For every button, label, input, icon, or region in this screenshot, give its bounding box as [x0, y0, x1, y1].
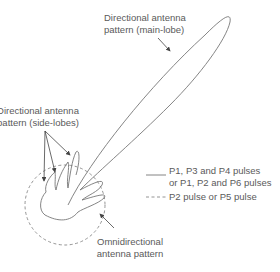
side-lobe-arrow-2 [45, 131, 55, 172]
side-lobes-label: Directional antenna pattern (side-lobes) [0, 105, 82, 128]
side-lobe-arrow-1 [44, 131, 45, 181]
legend-solid-line2: or P1, P2 and P6 pulses [169, 177, 271, 189]
main-lobe-arrow [158, 38, 170, 51]
legend-dashed-label: P2 pulse or P5 pulse [169, 191, 257, 203]
main-lobe-label-line1: Directional antenna [104, 12, 184, 24]
side-lobe-arrow-3 [45, 131, 70, 155]
omni-label-line1: Omnidirectional [90, 236, 170, 248]
main-lobe-label: Directional antenna pattern (main-lobe) [104, 12, 184, 35]
main-lobe-label-line2: pattern (main-lobe) [104, 24, 184, 36]
omni-label: Omnidirectional antenna pattern [90, 236, 170, 259]
legend-solid-line1: P1, P3 and P4 pulses [169, 165, 271, 177]
legend-solid-label: P1, P3 and P4 pulses or P1, P2 and P6 pu… [169, 165, 271, 188]
side-lobes-shape [41, 151, 105, 220]
legend-dashed-text: P2 pulse or P5 pulse [169, 191, 257, 203]
omni-arrow [100, 214, 114, 228]
omni-label-line2: antenna pattern [90, 248, 170, 260]
side-lobes-label-line1: Directional antenna [0, 105, 82, 117]
antenna-pattern-diagram [0, 0, 280, 272]
side-lobes-label-line2: pattern (side-lobes) [0, 117, 82, 129]
